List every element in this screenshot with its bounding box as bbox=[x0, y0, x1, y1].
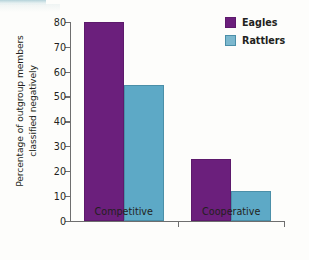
y-tick-label: 30 bbox=[54, 141, 66, 152]
y-axis-title-line-1: Percentage of outgroup members bbox=[14, 35, 27, 187]
x-axis-label-cooperative: Cooperative bbox=[178, 206, 286, 217]
legend-label: Eagles bbox=[242, 17, 277, 28]
y-tick-label: 10 bbox=[54, 190, 66, 201]
legend-item-eagles[interactable]: Eagles bbox=[225, 17, 285, 28]
x-axis-label-competitive: Competitive bbox=[70, 206, 178, 217]
x-tick-end bbox=[284, 222, 285, 227]
y-tick-label: 70 bbox=[54, 41, 66, 52]
y-axis-line bbox=[70, 22, 71, 222]
chart-legend: EaglesRattlers bbox=[225, 17, 285, 53]
y-tick-label: 40 bbox=[54, 116, 66, 127]
y-tick-label: 60 bbox=[54, 66, 66, 77]
bar-eagles-competitive bbox=[84, 22, 124, 221]
x-tick-separator bbox=[178, 222, 179, 227]
legend-item-rattlers[interactable]: Rattlers bbox=[225, 35, 285, 46]
legend-label: Rattlers bbox=[242, 35, 285, 46]
y-tick-label: 0 bbox=[60, 215, 66, 226]
legend-swatch-icon bbox=[225, 17, 236, 28]
y-tick-label: 20 bbox=[54, 165, 66, 176]
chart-figure: Percentage of outgroup members classifie… bbox=[0, 0, 309, 260]
y-tick-label: 80 bbox=[54, 17, 66, 28]
legend-swatch-icon bbox=[225, 35, 236, 46]
bar-rattlers-competitive bbox=[124, 85, 164, 220]
y-axis-title-line-2: classified negatively bbox=[26, 35, 39, 187]
y-axis-title: Percentage of outgroup members classifie… bbox=[0, 0, 52, 222]
y-tick-label: 50 bbox=[54, 91, 66, 102]
